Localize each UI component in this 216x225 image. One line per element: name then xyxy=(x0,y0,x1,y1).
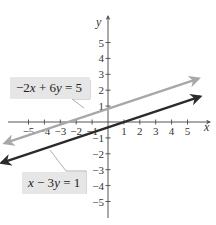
y-tick-label: 5 xyxy=(99,37,105,49)
y-tick-label: −1 xyxy=(92,132,104,144)
eq1-rhs: = 5 xyxy=(62,80,82,96)
x-tick-label: 5 xyxy=(185,125,191,137)
x-tick-label: 4 xyxy=(169,125,175,137)
eq2-rhs: = 1 xyxy=(60,175,80,191)
x-tick-label: 3 xyxy=(153,125,159,137)
equation-label-dark-line: x − 3y = 1 xyxy=(22,172,86,194)
eq1-coef: −2 xyxy=(16,80,30,96)
y-tick-label: −4 xyxy=(92,180,104,192)
eq2-op: − 3 xyxy=(34,175,54,191)
y-tick-label: 4 xyxy=(99,52,105,64)
y-tick-label: 3 xyxy=(99,68,105,80)
x-axis-label: x xyxy=(203,120,210,134)
y-tick-label: −3 xyxy=(92,164,104,176)
y-tick-label: −5 xyxy=(92,196,104,208)
y-tick-label: −2 xyxy=(92,148,104,160)
x-tick-label: 1 xyxy=(121,125,127,137)
x-tick-label: 2 xyxy=(137,125,143,137)
y-axis-label: y xyxy=(95,15,102,29)
y-tick-label: 2 xyxy=(99,84,105,96)
eq1-op: + 6 xyxy=(36,80,56,96)
x-tick-label: −2 xyxy=(70,125,82,137)
equation-label-gray-line: −2x + 6y = 5 xyxy=(10,77,90,99)
